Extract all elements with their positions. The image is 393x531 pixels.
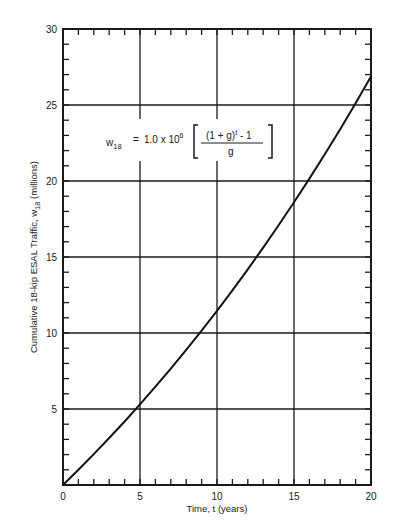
formula-numerator: (1 + g)t - 1 bbox=[206, 129, 252, 141]
x-tick-label: 0 bbox=[60, 491, 66, 502]
grid-lines bbox=[63, 29, 371, 485]
x-tick-label: 20 bbox=[365, 491, 377, 502]
x-axis-title: Time, t (years) bbox=[187, 503, 248, 514]
y-tick-labels: 51015202530 bbox=[46, 24, 58, 415]
esal-traffic-chart: 05101520 51015202530 w18 = 1.0 x 106 (1 … bbox=[0, 0, 393, 531]
y-tick-label: 5 bbox=[51, 404, 57, 415]
y-tick-label: 20 bbox=[46, 176, 58, 187]
y-tick-label: 15 bbox=[46, 252, 58, 263]
x-tick-labels: 05101520 bbox=[60, 491, 377, 502]
y-tick-label: 30 bbox=[46, 24, 58, 35]
formula-annotation: w18 = 1.0 x 106 (1 + g)t - 1 g bbox=[101, 119, 279, 161]
x-tick-label: 10 bbox=[211, 491, 223, 502]
y-tick-label: 10 bbox=[46, 328, 58, 339]
formula-coefficient: 1.0 x 106 bbox=[144, 132, 184, 145]
formula-denominator: g bbox=[228, 146, 234, 157]
y-axis-title: Cumulative 18-kip ESAL Traffic, w18 (mil… bbox=[28, 161, 42, 353]
x-tick-label: 5 bbox=[137, 491, 143, 502]
x-tick-label: 15 bbox=[288, 491, 300, 502]
y-tick-label: 25 bbox=[46, 100, 58, 111]
formula-equals: = bbox=[133, 134, 139, 145]
